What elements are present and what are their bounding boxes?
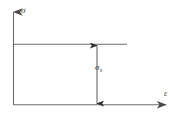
y-axis-label-sigma: σ bbox=[21, 6, 25, 15]
x-axis-label-epsilon: ε bbox=[164, 90, 167, 98]
yield-stress-symbol: σ bbox=[95, 62, 99, 72]
yield-stress-label: σs bbox=[95, 63, 102, 72]
diagram-canvas bbox=[0, 0, 180, 121]
stress-strain-figure: σ ε σs bbox=[0, 0, 180, 121]
yield-stress-subscript: s bbox=[100, 67, 102, 73]
